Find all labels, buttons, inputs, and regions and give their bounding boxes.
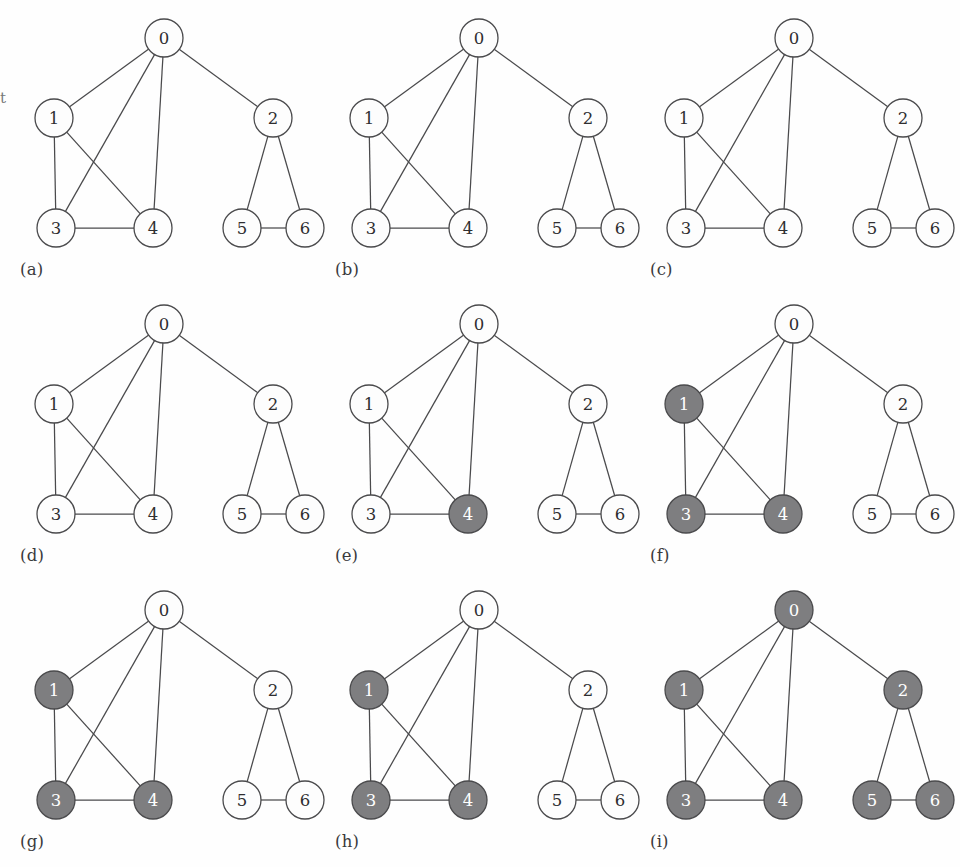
- graph-edge-1-3: [54, 422, 55, 496]
- graph-node-label-4: 4: [778, 505, 789, 524]
- graph-edge-0-1: [69, 621, 150, 680]
- panel-d-graph: 0123456: [14, 294, 329, 552]
- graph-node-label-5: 5: [552, 505, 563, 524]
- graph-node-label-4: 4: [148, 791, 159, 810]
- figure-sheet: t 0123456(a)0123456(b)0123456(c)0123456(…: [0, 0, 960, 867]
- graph-edge-2-6: [278, 421, 300, 496]
- graph-node-label-2: 2: [898, 681, 909, 700]
- graph-edge-0-2: [494, 335, 574, 394]
- graph-node-label-5: 5: [237, 219, 248, 238]
- graph-node-label-6: 6: [300, 505, 311, 524]
- graph-node-label-4: 4: [463, 791, 474, 810]
- graph-edge-1-3: [54, 708, 55, 782]
- graph-node-label-2: 2: [268, 681, 279, 700]
- panel-b: 0123456(b): [329, 8, 644, 294]
- graph-node-label-0: 0: [159, 315, 170, 334]
- graph-edge-1-3: [54, 136, 55, 210]
- graph-edge-2-5: [247, 707, 268, 782]
- graph-node-label-6: 6: [615, 791, 626, 810]
- graph-edge-2-5: [562, 135, 583, 210]
- graph-edge-0-1: [384, 335, 465, 394]
- graph-edge-0-1: [384, 49, 465, 108]
- panel-f-graph: 0123456: [644, 294, 959, 552]
- panel-e-graph: 0123456: [329, 294, 644, 552]
- panel-h: 0123456(h): [329, 580, 644, 866]
- panel-g: 0123456(g): [14, 580, 329, 866]
- graph-node-label-4: 4: [778, 791, 789, 810]
- graph-node-label-4: 4: [148, 219, 159, 238]
- graph-node-label-3: 3: [51, 791, 62, 810]
- panel-a: 0123456(a): [14, 8, 329, 294]
- graph-edge-2-5: [562, 421, 583, 496]
- graph-node-label-6: 6: [300, 219, 311, 238]
- graph-node-label-1: 1: [679, 681, 690, 700]
- graph-edge-0-2: [494, 49, 574, 108]
- graph-edge-0-2: [809, 335, 889, 394]
- panel-a-graph: 0123456: [14, 8, 329, 266]
- graph-node-label-2: 2: [583, 109, 594, 128]
- panel-e-caption: (e): [335, 546, 358, 565]
- graph-edge-0-2: [179, 49, 259, 108]
- graph-node-label-5: 5: [867, 791, 878, 810]
- graph-node-label-1: 1: [364, 681, 375, 700]
- graph-edge-1-3: [369, 708, 370, 782]
- graph-edge-2-6: [278, 707, 300, 782]
- graph-node-label-1: 1: [679, 109, 690, 128]
- graph-edge-0-1: [384, 621, 465, 680]
- panel-i: 0123456(i): [644, 580, 959, 866]
- graph-edge-2-5: [247, 135, 268, 210]
- graph-node-label-3: 3: [681, 219, 692, 238]
- graph-edge-0-4: [154, 342, 163, 496]
- graph-node-label-0: 0: [789, 601, 800, 620]
- graph-edge-2-5: [877, 135, 898, 210]
- panel-b-caption: (b): [335, 260, 359, 279]
- page-margin-text-fragment: t: [0, 88, 12, 108]
- graph-edge-0-4: [784, 56, 793, 210]
- graph-node-label-3: 3: [366, 219, 377, 238]
- graph-node-label-6: 6: [930, 791, 941, 810]
- graph-edge-2-6: [593, 421, 615, 496]
- panel-h-graph: 0123456: [329, 580, 644, 838]
- graph-node-label-5: 5: [867, 219, 878, 238]
- graph-edge-0-1: [699, 335, 780, 394]
- panel-c-graph: 0123456: [644, 8, 959, 266]
- panel-a-caption: (a): [20, 260, 43, 279]
- panel-g-graph: 0123456: [14, 580, 329, 838]
- graph-node-label-0: 0: [159, 601, 170, 620]
- graph-edge-0-2: [179, 621, 259, 680]
- graph-edge-0-1: [69, 335, 150, 394]
- graph-edge-1-3: [369, 422, 370, 496]
- graph-node-label-2: 2: [898, 109, 909, 128]
- graph-edge-0-1: [699, 49, 780, 108]
- graph-node-label-4: 4: [463, 219, 474, 238]
- graph-node-label-0: 0: [474, 29, 485, 48]
- panel-c: 0123456(c): [644, 8, 959, 294]
- graph-edge-1-3: [684, 708, 685, 782]
- graph-node-label-2: 2: [268, 109, 279, 128]
- graph-edge-0-2: [809, 621, 889, 680]
- panel-c-caption: (c): [650, 260, 673, 279]
- graph-edge-0-4: [469, 342, 478, 496]
- graph-edge-2-5: [877, 421, 898, 496]
- graph-node-label-3: 3: [681, 791, 692, 810]
- graph-node-label-1: 1: [364, 109, 375, 128]
- panel-grid: 0123456(a)0123456(b)0123456(c)0123456(d)…: [14, 8, 960, 864]
- graph-node-label-5: 5: [552, 791, 563, 810]
- graph-node-label-3: 3: [681, 505, 692, 524]
- panel-d: 0123456(d): [14, 294, 329, 580]
- graph-edge-2-5: [877, 707, 898, 782]
- graph-edge-0-1: [699, 621, 780, 680]
- graph-edge-0-4: [469, 56, 478, 210]
- graph-node-label-6: 6: [930, 219, 941, 238]
- graph-edge-0-1: [69, 49, 150, 108]
- graph-edge-0-4: [784, 342, 793, 496]
- graph-node-label-1: 1: [364, 395, 375, 414]
- graph-node-label-0: 0: [159, 29, 170, 48]
- graph-node-label-3: 3: [366, 791, 377, 810]
- graph-edge-0-4: [784, 628, 793, 782]
- graph-node-label-6: 6: [930, 505, 941, 524]
- graph-node-label-4: 4: [148, 505, 159, 524]
- graph-node-label-0: 0: [789, 315, 800, 334]
- graph-node-label-3: 3: [51, 219, 62, 238]
- graph-node-label-3: 3: [51, 505, 62, 524]
